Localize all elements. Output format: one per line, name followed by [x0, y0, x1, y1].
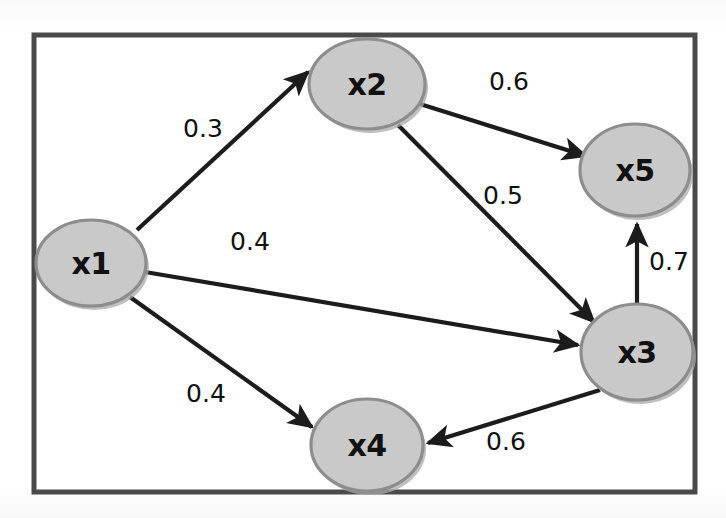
- node-x2-label: x2: [347, 67, 386, 102]
- figure-root: 0.3 0.6 0.5 0.4 0.7: [0, 0, 726, 518]
- edge-line-x1-x2: [137, 72, 308, 230]
- node-x3-label: x3: [617, 335, 656, 370]
- edge-weight-x1-x2: 0.3: [183, 114, 223, 143]
- edge-line-x2-x5: [420, 104, 586, 156]
- node-x4-label: x4: [347, 428, 386, 463]
- edge-line-x2-x3: [398, 125, 594, 322]
- node-x5-label: x5: [615, 153, 654, 188]
- node-x1-label: x1: [71, 246, 110, 281]
- edge-weight-x3-x5: 0.7: [649, 247, 689, 276]
- nodes-group: x1 x2 x3 x4 x5: [36, 39, 696, 495]
- edge-weight-x2-x3: 0.5: [483, 181, 523, 210]
- node-x4[interactable]: x4: [311, 399, 426, 495]
- edge-x2-to-x5[interactable]: 0.6: [420, 67, 586, 156]
- edge-x1-to-x2[interactable]: 0.3: [137, 72, 308, 230]
- edges-group: 0.3 0.6 0.5 0.4 0.7: [130, 67, 689, 456]
- edge-x1-to-x4[interactable]: 0.4: [130, 297, 312, 427]
- node-x2[interactable]: x2: [309, 39, 428, 133]
- edge-x3-to-x5[interactable]: 0.7: [637, 224, 689, 303]
- edge-x3-to-x4[interactable]: 0.6: [428, 390, 600, 456]
- edge-x2-to-x3[interactable]: 0.5: [398, 125, 594, 322]
- edge-x1-to-x3[interactable]: 0.4: [145, 227, 578, 345]
- node-x1[interactable]: x1: [36, 220, 149, 310]
- edge-line-x1-x3: [145, 272, 578, 345]
- edge-weight-x1-x3: 0.4: [230, 227, 270, 256]
- edge-weight-x2-x5: 0.6: [489, 67, 529, 96]
- edge-weight-x1-x4: 0.4: [186, 379, 226, 408]
- graph-canvas: 0.3 0.6 0.5 0.4 0.7: [0, 0, 726, 518]
- edge-weight-x3-x4: 0.6: [486, 427, 526, 456]
- node-x5[interactable]: x5: [580, 124, 693, 220]
